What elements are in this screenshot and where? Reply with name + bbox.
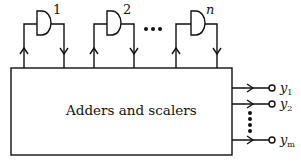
arrow-down-icon [60,48,221,54]
block-label: Adders and scalers [66,104,197,118]
output-y2 [232,100,275,108]
gate-1 [24,11,64,68]
gate-label-2: 2 [123,3,131,16]
gate-ellipsis-dots [144,27,162,31]
gate-n [176,11,217,68]
gate-2 [94,11,134,68]
output-label-y2: y2 [280,97,292,113]
gate-label-n: n [206,3,214,16]
output-y1 [232,84,275,92]
arrow-up-icon [20,48,180,54]
output-label-ym: ym [280,133,295,149]
output-label-y1: y1 [280,81,292,97]
diagram-canvas [0,0,301,165]
gate-label-1: 1 [53,3,61,16]
output-ym [232,136,275,144]
output-ellipsis-dots [248,111,252,133]
